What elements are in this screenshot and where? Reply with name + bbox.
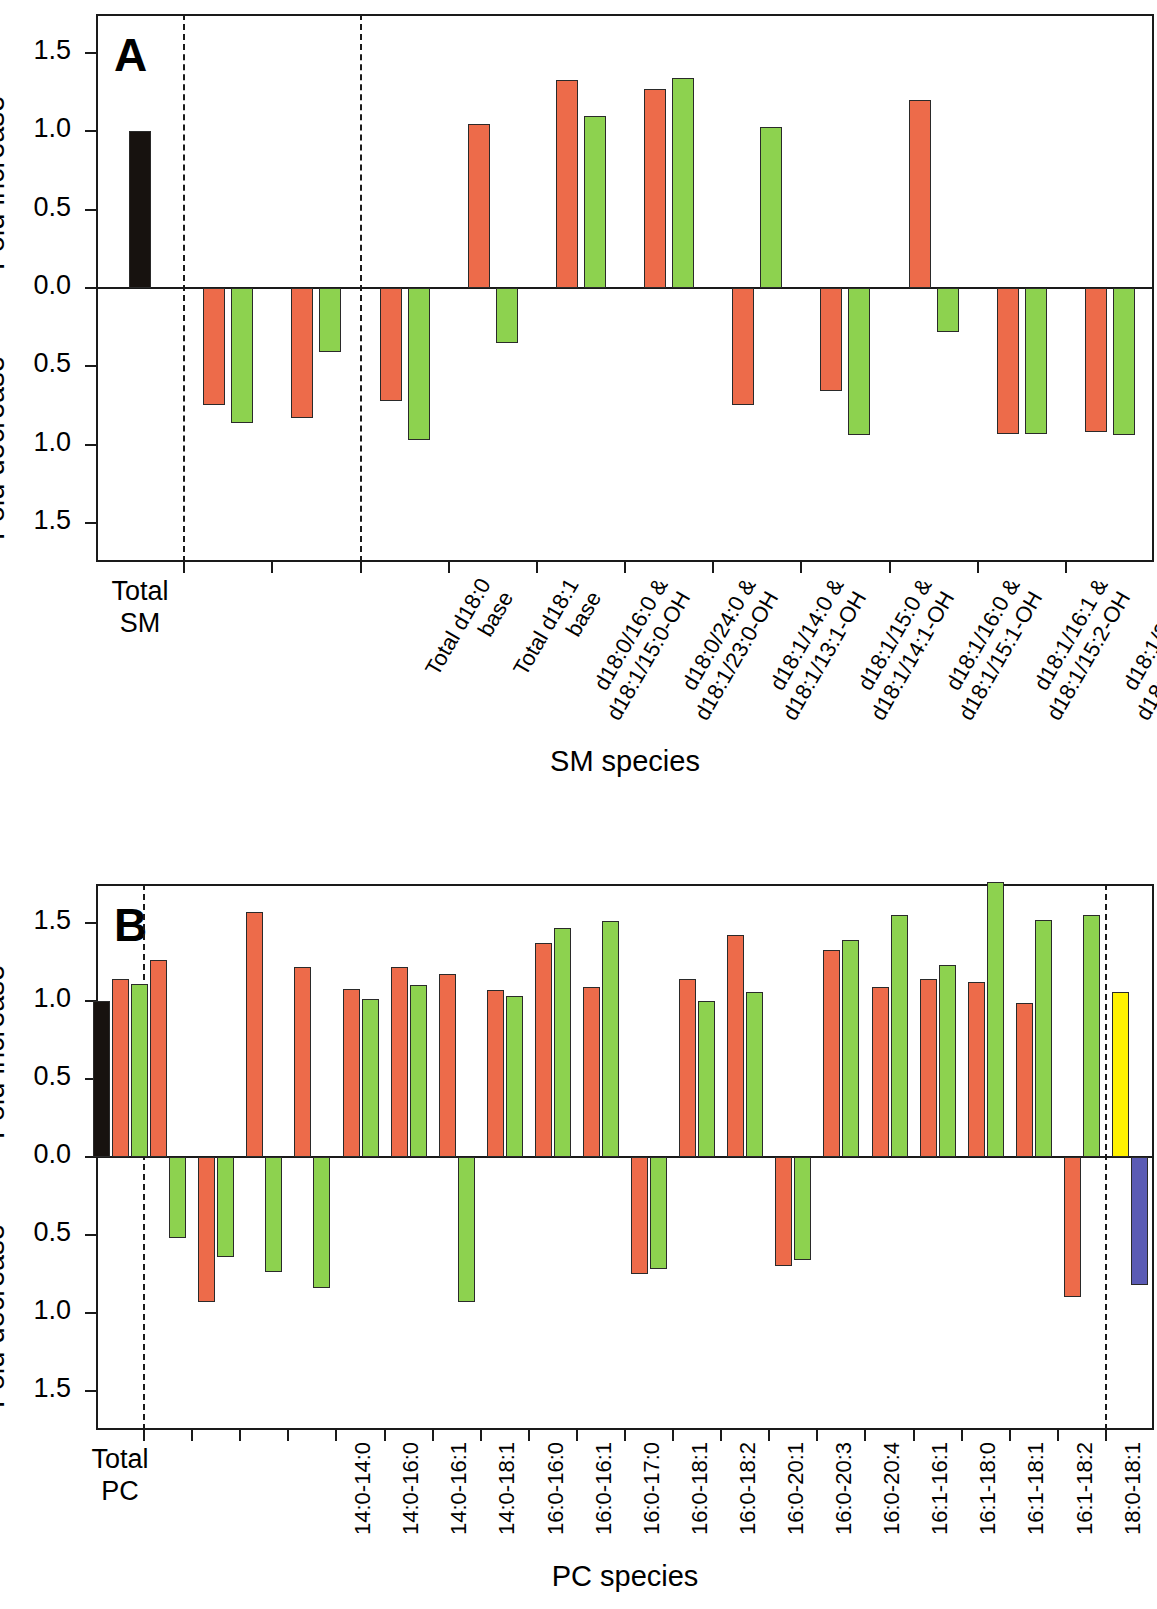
y-tick-mark (85, 209, 96, 211)
x-tick-mark (913, 1430, 915, 1441)
x-tick-mark (864, 1430, 866, 1441)
y-axis-title-decrease: Fold decrease (0, 1224, 11, 1408)
bar (891, 915, 908, 1157)
y-tick-label: 0.0 (1, 270, 71, 301)
y-tick-mark (85, 1312, 96, 1314)
bar (408, 288, 430, 440)
bar (265, 1157, 282, 1272)
bar (1113, 288, 1135, 435)
y-tick-mark (85, 365, 96, 367)
x-tick-mark (800, 562, 802, 573)
bar (313, 1157, 330, 1288)
y-axis-title-decrease: Fold decrease (0, 356, 11, 540)
panel-letter: A (114, 28, 147, 82)
y-tick-mark (85, 444, 96, 446)
bar (362, 999, 379, 1157)
bar (1083, 915, 1100, 1157)
y-tick-mark (85, 522, 96, 524)
bar (496, 288, 518, 343)
bar (131, 984, 148, 1157)
bar (231, 288, 253, 423)
bar (380, 288, 402, 401)
bar (842, 940, 859, 1157)
x-tick-mark (335, 1430, 337, 1441)
x-tick-mark (384, 1430, 386, 1441)
bar (410, 985, 427, 1157)
x-tick-mark (536, 562, 538, 573)
x-axis-title: SM species (96, 745, 1154, 778)
x-tick-mark (1105, 1430, 1107, 1441)
bar (644, 89, 666, 288)
bar (968, 982, 985, 1157)
bar (760, 127, 782, 288)
x-tick-mark (287, 1430, 289, 1441)
y-tick-mark (85, 1234, 96, 1236)
bar (732, 288, 754, 405)
bar (698, 1001, 715, 1157)
group-divider (1105, 884, 1107, 1430)
y-tick-label: 1.5 (1, 1373, 71, 1404)
bar (150, 960, 167, 1157)
x-tick-mark (624, 1430, 626, 1441)
y-tick-label: 1.0 (1, 113, 71, 144)
y-tick-mark (85, 130, 96, 132)
y-tick-label: 1.5 (1, 35, 71, 66)
x-tick-mark (889, 562, 891, 573)
bar (583, 987, 600, 1157)
y-tick-label: 1.0 (1, 1295, 71, 1326)
x-tick-mark (143, 1430, 145, 1441)
x-tick-mark (712, 562, 714, 573)
y-axis-title-increase: Fold increase (0, 96, 11, 270)
x-tick-mark (183, 562, 185, 573)
bar (727, 935, 744, 1157)
bar (554, 928, 571, 1157)
figure-root: A1.51.00.50.00.51.01.5Fold increaseFold … (0, 0, 1157, 1609)
bar (937, 288, 959, 332)
bar (1112, 992, 1129, 1157)
bar (1016, 1003, 1033, 1157)
x-tick-mark (961, 1430, 963, 1441)
group-divider (183, 14, 185, 562)
bar (987, 882, 1004, 1157)
bar (487, 990, 504, 1157)
y-tick-mark (85, 1390, 96, 1392)
x-tick-mark (271, 562, 273, 573)
bar (217, 1157, 234, 1257)
x-tick-mark (480, 1430, 482, 1441)
y-tick-label: 0.5 (1, 348, 71, 379)
x-tick-mark (360, 562, 362, 573)
x-tick-mark (1009, 1430, 1011, 1441)
x-tick-mark (977, 562, 979, 573)
bar (535, 943, 552, 1157)
bar (246, 912, 263, 1157)
y-tick-mark (85, 922, 96, 924)
bar (391, 967, 408, 1157)
bar (920, 979, 937, 1157)
bar (631, 1157, 648, 1274)
group-divider (143, 884, 145, 1430)
bar (823, 950, 840, 1157)
x-tick-mark (576, 1430, 578, 1441)
bar (458, 1157, 475, 1302)
bar (584, 116, 606, 288)
bar (112, 979, 129, 1157)
bar (1035, 920, 1052, 1157)
x-axis-title: PC species (96, 1560, 1154, 1593)
bar (556, 80, 578, 288)
bar (439, 974, 456, 1157)
y-axis-title-increase: Fold increase (0, 965, 11, 1139)
bar (1131, 1157, 1148, 1285)
y-tick-label: 0.5 (1, 192, 71, 223)
bar (794, 1157, 811, 1260)
bar (343, 989, 360, 1157)
y-tick-label: 0.5 (1, 1061, 71, 1092)
x-tick-mark (624, 562, 626, 573)
y-tick-label: 1.5 (1, 505, 71, 536)
bar (319, 288, 341, 352)
bar (672, 78, 694, 288)
bar (93, 1001, 110, 1157)
y-tick-mark (85, 287, 96, 289)
x-tick-mark (432, 1430, 434, 1441)
y-tick-mark (85, 52, 96, 54)
bar (169, 1157, 186, 1238)
